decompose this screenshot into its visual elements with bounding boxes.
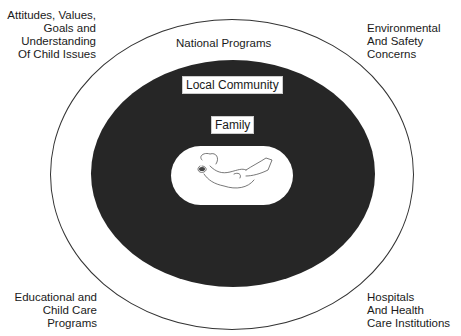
- text-line: Goals and: [2, 22, 96, 35]
- text-line: Hospitals: [367, 291, 461, 304]
- text-line: Attitudes, Values,: [2, 9, 96, 22]
- corner-label-top-right: Environmental And Safety Concerns: [367, 22, 461, 61]
- text-line: Environmental: [367, 22, 461, 35]
- text-line: Of Child Issues: [2, 48, 96, 61]
- text-line: Understanding: [2, 35, 96, 48]
- text-line: And Health: [367, 304, 461, 317]
- infant-illustration-icon: [190, 150, 280, 200]
- layer-label-local-community: Local Community: [182, 76, 283, 94]
- corner-label-bottom-left: Educational and Child Care Programs: [2, 291, 97, 330]
- corner-label-bottom-right: Hospitals And Health Care Institutions: [367, 291, 461, 330]
- text-line: And Safety: [367, 35, 461, 48]
- text-line: Care Institutions: [367, 317, 461, 330]
- text-line: Programs: [2, 317, 97, 330]
- text-line: Concerns: [367, 48, 461, 61]
- layer-label-national-programs: National Programs: [176, 37, 271, 50]
- corner-label-top-left: Attitudes, Values, Goals and Understandi…: [2, 9, 96, 61]
- text-line: Child Care: [2, 304, 97, 317]
- layer-label-family: Family: [211, 116, 254, 134]
- text-line: Educational and: [2, 291, 97, 304]
